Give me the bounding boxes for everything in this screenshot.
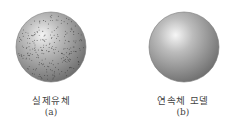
figure-a: 실제유체 (a) — [0, 0, 122, 122]
figure-b-label: 연속체 모델 — [122, 93, 244, 107]
figure-a-sublabel: (a) — [0, 107, 112, 117]
figure-b: 연속체 모델 (b) — [122, 0, 244, 122]
figure-a-label: 실제유체 — [0, 93, 112, 107]
figure-b-sublabel: (b) — [122, 107, 244, 117]
